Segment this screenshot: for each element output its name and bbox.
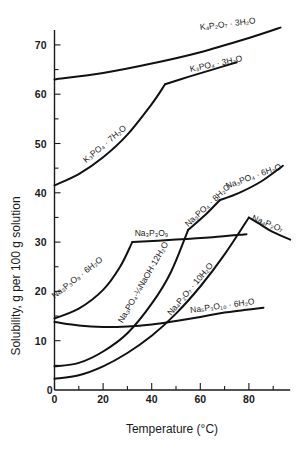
curve-label-na3po4-8h2o: Na₃PO₄ · 8H₂O [183,181,233,228]
curve-label-k3po4-7h2o: K₃PO₄ · 7H₂O [81,123,128,165]
x-axis-title: Temperature (°C) [126,422,218,436]
curve-label-na3po4-1-4naoh-12h2o: Na₃PO₄·¼NaOH·12H₂O [116,239,171,324]
x-tick-label: 80 [243,393,255,405]
solubility-chart: 020406080010203040506070 K₄P₂O₇ · 3H₂OK₃… [0,0,307,452]
y-tick-label: 0 [47,384,53,396]
y-tick-label: 20 [35,285,47,297]
curve-label-k4p2o7-3h2o: K₄P₂O₇ · 3H₂O [199,15,256,32]
x-tick-label: 40 [146,393,158,405]
y-tick-label: 10 [35,335,47,347]
curve-label-na3p3o9: Na₃P₃O₉ [135,228,168,238]
y-tick-label: 40 [35,187,47,199]
curve-label-k3po4-3h2o: K₃PO₄ · 3H₂O [189,53,244,74]
curves [55,28,291,379]
y-tick-label: 70 [35,39,47,51]
curve-k4p2o7-3h2o [55,28,281,80]
y-tick-label: 60 [35,88,47,100]
curve-na5p3o10-6h2o [55,308,264,327]
curve-label-na3p3o9-6h2o: Na₃P₃O₉ · 6H₂O [50,254,105,300]
x-tick-label: 20 [97,393,109,405]
y-tick-label: 50 [35,138,47,150]
curve-label-na4p2o7: Na₄P₂O₇ [251,212,285,234]
curve-na3po4-1-4naoh-12h2o [55,230,189,366]
x-tick-label: 60 [194,393,206,405]
y-axis-title: Solubility, g per 100 g solution [9,196,23,355]
y-tick-label: 30 [35,236,47,248]
